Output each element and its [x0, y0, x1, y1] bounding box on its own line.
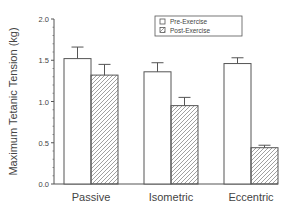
y-axis-title: Maximum Tetanic Tension (kg) — [7, 27, 19, 175]
bar-post-exercise-passive — [91, 75, 118, 184]
legend-swatch — [160, 19, 165, 24]
bar-chart: Maximum Tetanic Tension (kg) 0.00.51.01.… — [0, 0, 303, 214]
x-tick-label: Passive — [72, 191, 111, 203]
bar-pre-exercise-isometric — [144, 72, 171, 184]
y-tick-label: 0.0 — [39, 180, 49, 189]
legend-label: Pre-Exercise — [170, 18, 208, 25]
x-tick-label: Isometric — [149, 191, 194, 203]
bars: PassiveIsometricEccentric — [64, 47, 278, 203]
y-tick-label: 1.0 — [39, 98, 49, 107]
y-tick-label: 1.5 — [39, 56, 49, 65]
y-axis-label: Maximum Tetanic Tension (kg) — [7, 27, 19, 175]
bar-post-exercise-isometric — [171, 106, 198, 184]
legend-swatch — [160, 28, 165, 33]
bar-pre-exercise-eccentric — [224, 64, 251, 184]
y-tick-label: 2.0 — [39, 15, 49, 24]
y-tick-label: 0.5 — [39, 139, 49, 148]
legend-label: Post-Exercise — [170, 27, 210, 34]
x-tick-label: Eccentric — [228, 191, 274, 203]
bar-pre-exercise-passive — [64, 59, 91, 184]
bar-post-exercise-eccentric — [251, 148, 278, 184]
legend: Pre-ExercisePost-Exercise — [155, 16, 242, 36]
